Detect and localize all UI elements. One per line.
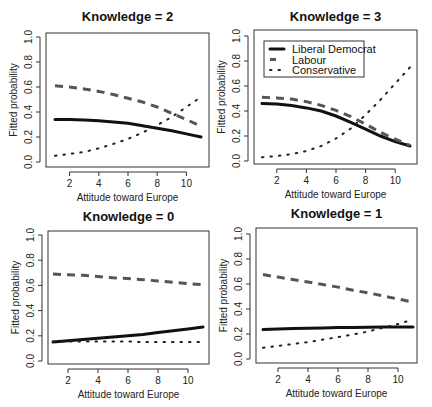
legend: Liberal DemocratLabourConservative: [264, 41, 376, 77]
legend-label-conservative: Conservative: [292, 64, 356, 76]
y-tick-label: 0.2: [233, 327, 244, 341]
plot-frame: [256, 228, 417, 363]
series-line-conservative: [263, 320, 413, 348]
x-tick-label: 2: [65, 375, 71, 386]
x-tick-label: 10: [181, 178, 193, 189]
y-tick-label: 1.0: [233, 227, 244, 241]
x-tick-label: 4: [96, 178, 102, 189]
x-tick-label: 6: [333, 175, 339, 186]
y-tick-label: 0.0: [233, 352, 244, 366]
x-tick-label: 10: [182, 375, 194, 386]
y-axis-label: Fitted probability: [8, 63, 19, 136]
y-tick-label: 0.8: [25, 253, 36, 267]
y-tick-label: 0.0: [231, 154, 242, 168]
panel-title: Knowledge = 1: [291, 206, 382, 221]
x-tick-label: 8: [155, 375, 161, 386]
x-tick-label: 4: [95, 375, 101, 386]
x-tick-label: 10: [392, 374, 404, 385]
series-line-liberal-democrat: [55, 120, 201, 138]
series-line-labour: [53, 274, 203, 285]
series-line-conservative: [55, 97, 201, 156]
y-tick-label: 0.4: [231, 104, 242, 118]
x-tick-label: 6: [335, 374, 341, 385]
y-axis-label: Fitted probability: [218, 259, 229, 332]
panel-knowledge-1: Knowledge = 10.00.20.40.60.81.0Fitted pr…: [218, 206, 417, 399]
x-tick-label: 8: [154, 178, 160, 189]
series-line-liberal-democrat: [263, 327, 413, 330]
y-tick-label: 0.8: [233, 252, 244, 266]
x-tick-label: 2: [67, 178, 73, 189]
x-axis-label: Attitude toward Europe: [78, 389, 180, 400]
x-tick-label: 4: [305, 374, 311, 385]
y-axis-label: Fitted probability: [10, 261, 21, 334]
plot-frame: [46, 33, 209, 167]
y-tick-label: 0.4: [233, 302, 244, 316]
x-axis-label: Attitude toward Europe: [77, 192, 179, 203]
y-tick-label: 0.4: [25, 303, 36, 317]
panel-title: Knowledge = 3: [290, 9, 381, 24]
series-line-labour: [263, 275, 413, 303]
series-line-conservative: [262, 67, 410, 157]
panel-title: Knowledge = 0: [83, 209, 174, 224]
x-tick-label: 10: [390, 175, 402, 186]
panel-title: Knowledge = 2: [82, 9, 173, 24]
y-tick-label: 0.8: [231, 54, 242, 68]
figure-grid: Knowledge = 20.00.20.40.60.81.0Fitted pr…: [0, 0, 432, 407]
y-tick-label: 1.0: [23, 30, 34, 44]
y-tick-label: 0.4: [23, 105, 34, 119]
plot-frame: [48, 231, 209, 364]
y-tick-label: 1.0: [231, 29, 242, 43]
panel-knowledge-3: Knowledge = 30.00.20.40.60.81.0Fitted pr…: [216, 9, 417, 200]
y-tick-label: 0.2: [231, 129, 242, 143]
x-tick-label: 6: [125, 178, 131, 189]
x-tick-label: 4: [304, 175, 310, 186]
x-tick-label: 2: [274, 175, 280, 186]
panel-knowledge-2: Knowledge = 20.00.20.40.60.81.0Fitted pr…: [8, 9, 209, 203]
y-tick-label: 0.6: [23, 80, 34, 94]
y-tick-label: 0.2: [25, 328, 36, 342]
panel-knowledge-0: Knowledge = 00.00.20.40.60.81.0Fitted pr…: [10, 209, 209, 400]
y-axis-label: Fitted probability: [216, 60, 227, 133]
y-tick-label: 0.0: [25, 354, 36, 368]
x-tick-label: 2: [275, 374, 281, 385]
series-line-liberal-democrat: [53, 327, 203, 342]
y-tick-label: 0.0: [23, 155, 34, 169]
y-tick-label: 0.6: [231, 79, 242, 93]
y-tick-label: 0.6: [25, 278, 36, 292]
y-tick-label: 0.2: [23, 130, 34, 144]
y-tick-label: 0.6: [233, 277, 244, 291]
x-tick-label: 8: [363, 175, 369, 186]
y-tick-label: 1.0: [25, 228, 36, 242]
x-axis-label: Attitude toward Europe: [286, 388, 388, 399]
x-tick-label: 6: [125, 375, 131, 386]
x-axis-label: Attitude toward Europe: [285, 189, 387, 200]
y-tick-label: 0.8: [23, 55, 34, 69]
x-tick-label: 8: [365, 374, 371, 385]
